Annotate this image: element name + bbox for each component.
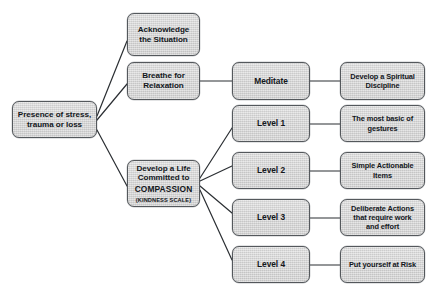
node-develop-a-spiritual-discipline[interactable]: Develop a Spiritual Discipline [340,62,425,100]
connector-root-to-breathe [97,84,127,120]
node-label: Develop a Spiritual Discipline [344,72,421,90]
node-deliberate-actions[interactable]: Deliberate Actions that require work and… [340,199,425,236]
node-label: Deliberate Actions that require work and… [344,204,421,231]
node-presence-of-stress[interactable]: Presence of stress, trauma or loss [12,101,97,138]
node-label: Presence of stress, trauma or loss [16,110,93,130]
node-label: The most basic of gestures [344,114,421,132]
node-breathe-for-relaxation[interactable]: Breathe for Relaxation [127,62,200,100]
node-label-line1: Develop a Life Committed to [131,164,196,184]
node-level-2[interactable]: Level 2 [232,152,310,189]
node-label: Level 4 [236,259,306,269]
connector-compassion-to-level1 [200,128,232,178]
node-simple-actionable-items[interactable]: Simple Actionable Items [340,152,425,189]
node-acknowledge-the-situation[interactable]: Acknowledge the Situation [127,13,200,56]
node-the-most-basic-of-gestures[interactable]: The most basic of gestures [340,105,425,142]
node-label: Acknowledge the Situation [131,25,196,45]
node-level-4[interactable]: Level 4 [232,246,310,283]
node-label: Breathe for Relaxation [131,71,196,91]
flowchart-canvas: Presence of stress, trauma or loss Ackno… [0,0,436,300]
node-level-1[interactable]: Level 1 [232,105,310,142]
connector-compassion-to-level3 [200,186,232,213]
node-label: Put yourself at Risk [344,260,421,269]
connector-compassion-to-level4 [200,190,232,260]
node-meditate[interactable]: Meditate [232,62,310,100]
connector-root-to-acknowledge [97,41,127,116]
node-label-compassion: COMPASSION [131,184,196,194]
node-label: Simple Actionable Items [344,161,421,179]
connector-compassion-to-level2 [200,166,232,181]
node-label: Level 1 [236,118,306,128]
node-label: Meditate [236,76,306,86]
node-label-kindness-scale: (KINDNESS SCALE) [131,197,196,204]
node-put-yourself-at-risk[interactable]: Put yourself at Risk [340,246,425,283]
node-label: Level 3 [236,212,306,222]
node-label: Level 2 [236,165,306,175]
node-level-3[interactable]: Level 3 [232,199,310,236]
connector-root-to-compassion [97,130,127,186]
node-develop-a-life-committed-to-compassion[interactable]: Develop a Life Committed to COMPASSION (… [127,160,200,207]
